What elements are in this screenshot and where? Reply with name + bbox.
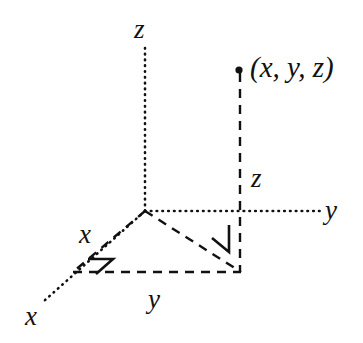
x-projection-label: x [79, 221, 91, 248]
point-coordinate-label: (x, y, z) [250, 53, 334, 82]
axis-lines [44, 45, 321, 301]
origin-to-foot-dashed [145, 211, 241, 272]
z-axis-label: z [134, 16, 145, 43]
coordinate-diagram: z y x x y z (x, y, z) [0, 0, 363, 343]
z-projection-label: z [251, 165, 262, 192]
x-axis-label: x [25, 303, 37, 330]
right-angle-markers [88, 225, 229, 274]
right-angle-marker-yz-corner [212, 225, 229, 252]
y-projection-label: y [148, 286, 160, 313]
point-marker-dot [235, 66, 242, 73]
y-axis-label: y [325, 197, 337, 224]
